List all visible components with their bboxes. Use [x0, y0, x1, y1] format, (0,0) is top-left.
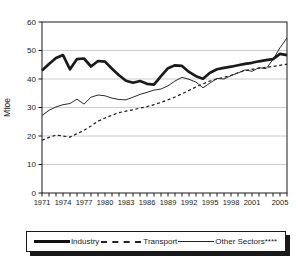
y-tick-label: 10	[27, 160, 36, 169]
x-tick-label: 2001	[244, 198, 261, 207]
x-tick-label: 1971	[34, 198, 51, 207]
legend-label-other-sectors: Other Sectors****	[214, 237, 278, 246]
x-tick-label: 1986	[139, 198, 156, 207]
y-tick-label: 20	[27, 132, 36, 141]
chart-legend: Industry Transport Other Sectors****	[26, 231, 286, 252]
y-tick-label: 50	[27, 46, 36, 55]
other-sectors-line-sample-icon	[178, 241, 214, 242]
legend-item-industry: Industry	[34, 237, 100, 246]
y-tick-label: 0	[32, 189, 37, 198]
industry-line	[42, 54, 287, 85]
y-tick-label: 40	[27, 75, 36, 84]
transport-line	[42, 64, 287, 140]
x-tick-label: 1995	[202, 198, 219, 207]
other-sectors-line	[42, 38, 287, 116]
chart-plot-area: 0102030405060Mtoe19711974197719801983198…	[0, 0, 300, 225]
x-tick-label: 1998	[223, 198, 240, 207]
legend-label-transport: Transport	[142, 237, 178, 246]
x-tick-label: 2005	[272, 198, 289, 207]
legend-label-industry: Industry	[70, 237, 100, 246]
x-tick-label: 1992	[181, 198, 198, 207]
x-tick-label: 1977	[76, 198, 93, 207]
y-tick-label: 30	[27, 103, 36, 112]
x-tick-label: 1983	[118, 198, 135, 207]
x-tick-label: 1974	[55, 198, 72, 207]
y-axis-title: Mtoe	[2, 98, 12, 117]
x-tick-label: 1980	[97, 198, 114, 207]
legend-item-transport: Transport	[100, 237, 178, 246]
y-tick-label: 60	[27, 18, 36, 27]
transport-line-sample-icon	[101, 241, 141, 243]
industry-line-sample-icon	[34, 240, 70, 243]
x-tick-label: 1989	[160, 198, 177, 207]
legend-item-other-sectors: Other Sectors****	[178, 237, 278, 246]
line-chart-figure: 0102030405060Mtoe19711974197719801983198…	[0, 0, 300, 268]
